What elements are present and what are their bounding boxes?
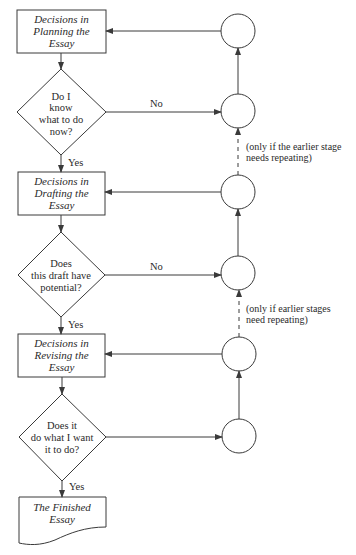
box-drafting-line-3: Essay: [48, 199, 75, 211]
decision-know-line-4: now?: [50, 126, 73, 137]
box-planning-line-3: Essay: [48, 37, 75, 49]
no-label-1: No: [150, 98, 163, 109]
box-planning-line-2: Planning the: [32, 25, 90, 37]
box-revising-line-1: Decisions in: [33, 337, 89, 349]
decision-does-it-line-1: Does it: [47, 420, 77, 431]
end-finished-line-1: The Finished: [33, 501, 91, 513]
decision-potential-line-1: Does: [50, 258, 72, 269]
decision-potential-line-2: this draft have: [31, 270, 91, 281]
yes-label-2: Yes: [68, 319, 83, 330]
decision-does-it-line-2: do what I want: [31, 432, 94, 443]
yes-label-3: Yes: [69, 481, 84, 492]
yes-label-1: Yes: [68, 157, 83, 168]
connector-circle-5: [222, 337, 256, 371]
note-1-line-2: needs repeating): [246, 152, 312, 164]
decision-does-it-line-3: it to do?: [45, 444, 80, 455]
end-finished-line-2: Essay: [48, 513, 75, 525]
box-revising-line-2: Revising the: [33, 349, 88, 361]
note-2-line-2: need repeating): [246, 314, 308, 326]
connector-circle-1: [221, 14, 255, 48]
decision-potential-line-3: potential?: [40, 282, 82, 293]
box-planning-line-1: Decisions in: [33, 13, 89, 25]
decision-know-line-2: know: [49, 102, 73, 113]
connector-circle-6: [222, 419, 256, 453]
box-revising-line-3: Essay: [48, 361, 75, 373]
box-drafting-line-2: Drafting the: [33, 187, 88, 199]
connector-circle-2: [221, 94, 255, 128]
connector-circle-3: [221, 175, 255, 209]
flowchart: Decisions in Planning the Essay Decision…: [0, 0, 356, 555]
decision-know-line-1: Do I: [52, 91, 71, 102]
connector-circle-4: [221, 256, 255, 290]
box-drafting-line-1: Decisions in: [33, 175, 89, 187]
decision-know-line-3: what to do: [39, 114, 83, 125]
no-label-2: No: [150, 261, 163, 272]
